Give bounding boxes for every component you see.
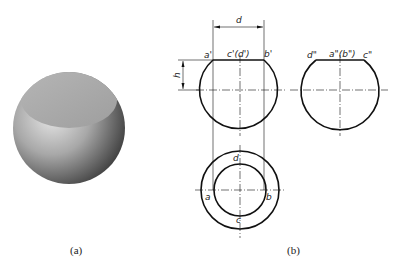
label-a-double-prime-b-double-prime: a"(b") [329,49,356,59]
caption-a: (a) [70,244,82,256]
label-c: c [236,215,241,225]
solid-truncated-sphere [13,72,125,184]
label-c-double-prime: c" [363,50,372,60]
projection-figure: d h a' c'(d') b' d" a"(b") c" d a b c [0,0,396,270]
side-view [290,55,388,136]
label-d-double-prime: d" [307,50,317,60]
arrowhead-icon [182,83,185,89]
label-b: b [266,192,272,202]
label-dimension-h: h [172,72,182,78]
label-a-prime: a' [204,50,212,60]
arrowhead-icon [257,26,263,29]
label-a: a [205,192,211,202]
flat-top-face [21,72,117,128]
label-c-prime-d-prime: c'(d') [227,49,250,59]
label-dimension-d: d [236,15,242,25]
label-b-prime: b' [264,49,272,59]
label-d: d [233,153,239,163]
front-outline-arc [199,60,277,129]
arrowhead-icon [182,61,185,67]
caption-b: (b) [287,244,300,256]
arrowhead-icon [214,26,220,29]
